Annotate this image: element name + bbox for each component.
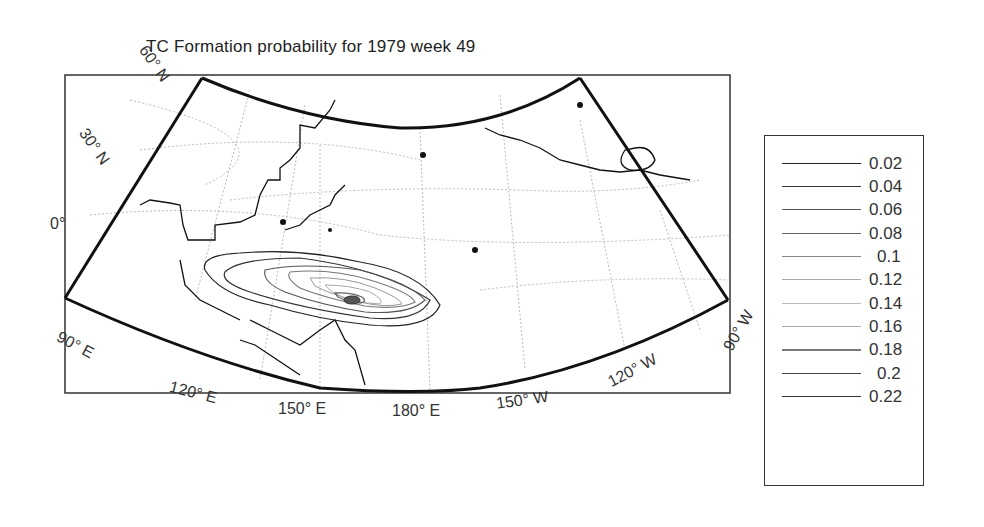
islands [280,102,583,253]
legend-label: 0.18 [869,340,902,360]
legend-line [782,186,861,187]
legend-item: 0.14 [765,294,923,314]
legend-label: 0.12 [869,270,902,290]
legend-line [782,209,861,210]
lon-label-150e: 150° E [278,400,326,418]
legend-item: 0.1 [765,247,923,267]
legend-line [782,373,861,374]
legend: 0.02 0.04 0.06 0.08 0.1 0.12 0.14 0.16 0… [764,135,924,486]
lon-label-180e: 180° E [392,402,440,420]
legend-line [782,279,861,280]
legend-item: 0.04 [765,177,923,197]
legend-line [782,163,861,164]
legend-label: 0.2 [877,364,901,384]
legend-line [782,349,861,351]
legend-line [782,303,861,304]
legend-item: 0.18 [765,340,923,360]
legend-label: 0.02 [869,154,902,174]
coastlines [140,100,690,385]
legend-label: 0.22 [869,387,902,407]
legend-label: 0.1 [877,247,901,267]
legend-item: 0.02 [765,154,923,174]
legend-item: 0.22 [765,387,923,407]
legend-line [782,233,861,234]
projection-boundary [65,78,728,392]
legend-line [782,256,861,257]
legend-line [782,326,861,327]
legend-label: 0.06 [869,200,902,220]
legend-item: 0.08 [765,224,923,244]
probability-contours [204,252,440,326]
legend-label: 0.14 [869,294,902,314]
legend-label: 0.04 [869,177,902,197]
lat-label-0: 0° [50,215,65,233]
legend-line [782,396,861,397]
legend-item: 0.2 [765,364,923,384]
legend-item: 0.12 [765,270,923,290]
legend-item: 0.06 [765,200,923,220]
legend-label: 0.16 [869,317,902,337]
legend-item: 0.16 [765,317,923,337]
legend-label: 0.08 [869,224,902,244]
